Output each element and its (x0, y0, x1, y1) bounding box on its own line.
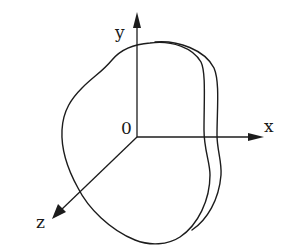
y-axis-arrow-icon (133, 12, 141, 28)
origin-label: 0 (121, 118, 132, 138)
z-axis-arrow-icon (52, 204, 66, 219)
body-back-outline (155, 42, 221, 230)
y-axis-label: y (114, 22, 125, 42)
coordinate-diagram: y x z 0 (0, 0, 283, 249)
x-axis-arrow-icon (248, 133, 264, 141)
x-axis-label: x (264, 116, 274, 136)
body-front-outline (62, 42, 210, 243)
z-axis-label: z (36, 212, 45, 232)
